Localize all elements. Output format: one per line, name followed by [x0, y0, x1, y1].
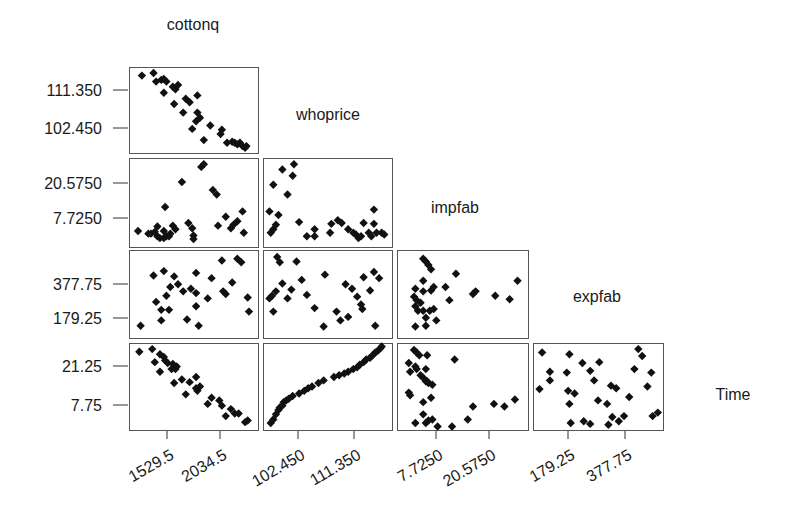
panel-cottonq-vs-impfab: [130, 159, 259, 248]
panel-impfab-vs-Time: [398, 344, 529, 431]
variable-label: whoprice: [295, 106, 360, 123]
x-tick-label: 102.450: [249, 446, 308, 490]
x-tick-label: 111.350: [307, 446, 364, 489]
x-tick-label: 179.25: [527, 446, 578, 485]
panel-expfab-vs-Time: [534, 344, 664, 431]
variable-label: cottonq: [167, 16, 219, 33]
variable-label: impfab: [431, 199, 479, 216]
y-tick-label: 111.350: [47, 82, 103, 99]
y-tick-label: 20.5750: [44, 175, 102, 192]
panel-cottonq-vs-whoprice: [130, 68, 259, 154]
scatterplot-matrix: cottonqwhopriceimpfabexpfabTime111.35010…: [0, 0, 794, 526]
y-tick-label: 7.75: [71, 397, 102, 414]
x-tick-label: 1529.5: [126, 446, 177, 485]
panel-whoprice-vs-Time: [264, 342, 393, 430]
variable-label: Time: [716, 386, 751, 403]
panel-cottonq-vs-expfab: [130, 251, 259, 339]
panel-whoprice-vs-impfab: [264, 159, 393, 248]
y-tick-label: 7.7250: [53, 210, 102, 227]
y-tick-label: 377.75: [53, 276, 102, 293]
panel-whoprice-vs-expfab: [264, 251, 393, 339]
y-tick-label: 102.450: [44, 120, 102, 137]
y-tick-label: 21.25: [62, 358, 102, 375]
x-tick-label: 20.5750: [440, 446, 499, 490]
panel-impfab-vs-expfab: [398, 251, 529, 339]
y-tick-label: 179.25: [53, 310, 102, 327]
variable-label: expfab: [573, 288, 621, 305]
x-tick-label: 2034.5: [179, 446, 230, 485]
x-tick-label: 7.7250: [395, 446, 446, 485]
x-tick-label: 377.75: [584, 446, 635, 485]
panel-cottonq-vs-Time: [130, 344, 259, 431]
